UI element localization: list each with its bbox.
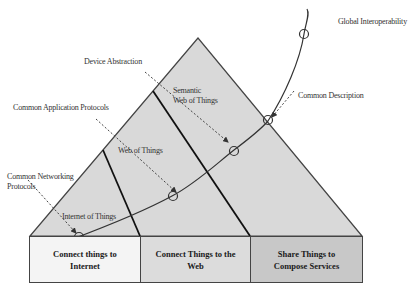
label-common-description: Common Description (298, 91, 364, 101)
box2-line2: Web (156, 260, 236, 272)
box-share-things-compose: Share Things to Compose Services (250, 236, 363, 283)
label-device-abstraction: Device Abstraction (84, 57, 142, 67)
pyramid-triangle (30, 38, 362, 236)
box-connect-things-web: Connect Things to the Web (140, 236, 251, 283)
label-semantic-line2: Web of Things (173, 96, 218, 106)
label-common-networking-line1: Common Networking (7, 172, 74, 182)
label-semantic-web-of-things: Semantic Web of Things (173, 86, 218, 106)
box-connect-things-internet: Connect things to Internet (29, 236, 141, 283)
label-common-application-protocols: Common Application Protocols (13, 103, 109, 113)
box1-line1: Connect things to (53, 248, 117, 260)
label-common-networking-line2: Protocols (7, 182, 74, 192)
label-common-networking-protocols: Common Networking Protocols (7, 172, 74, 192)
box2-line1: Connect Things to the (156, 248, 236, 260)
label-global-interoperability: Global Interoperability (338, 17, 407, 27)
box3-line2: Compose Services (274, 260, 339, 272)
label-web-of-things: Web of Things (118, 146, 163, 156)
box1-line2: Internet (53, 260, 117, 272)
box3-line1: Share Things to (274, 248, 339, 260)
label-semantic-line1: Semantic (173, 86, 218, 96)
label-internet-of-things: Internet of Things (62, 212, 116, 222)
